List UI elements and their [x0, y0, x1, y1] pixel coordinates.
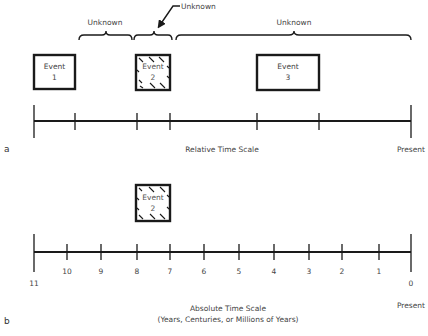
event-1-number: 1: [52, 73, 57, 82]
event-3-box: Event 3: [257, 55, 319, 90]
axis-tick-label: 11: [29, 279, 39, 288]
axis-tick-label: 6: [202, 267, 207, 276]
panel-a-label: a: [4, 144, 10, 154]
brace-label-unknown-3: Unknown: [277, 18, 312, 27]
axis-tick-label: 5: [237, 267, 242, 276]
arrow-unknown-2: [160, 6, 180, 25]
axis-tick-label: 8: [135, 267, 140, 276]
event-2-label-absolute: Event: [142, 193, 164, 202]
panel-a: Unknown Unknown Unknown Event 1: [4, 2, 425, 154]
absolute-scale-label: Absolute Time Scale: [190, 304, 266, 313]
axis-tick-label: 7: [168, 267, 173, 276]
absolute-scale-sublabel: (Years, Centuries, or Millions of Years): [157, 315, 298, 324]
event-2-box-absolute: Event 2: [136, 185, 170, 221]
relative-scale-label: Relative Time Scale: [185, 145, 259, 154]
event-2-box: Event 2: [136, 55, 170, 90]
axis-tick-label: 3: [307, 267, 312, 276]
event-2-number: 2: [151, 73, 156, 82]
absolute-axis-ticks: 11109876543210: [29, 234, 413, 288]
brace-label-unknown-1: Unknown: [88, 18, 123, 27]
event-2-number-absolute: 2: [151, 204, 156, 213]
brace-unknown-2: [134, 31, 172, 40]
axis-tick-label: 9: [99, 267, 104, 276]
event-1-label: Event: [44, 62, 66, 71]
axis-tick-label: 10: [62, 267, 72, 276]
event-3-label: Event: [277, 62, 299, 71]
time-scale-diagram: Unknown Unknown Unknown Event 1: [0, 0, 428, 336]
axis-tick-label: 1: [377, 267, 382, 276]
brace-unknown-1: [79, 31, 132, 40]
event-2-label: Event: [142, 62, 164, 71]
brace-unknown-3: [176, 31, 411, 40]
event-3-number: 3: [286, 73, 291, 82]
panel-b: Event 2 11109876543210 Present b Absolut…: [4, 185, 425, 326]
event-1-box: Event 1: [34, 55, 75, 89]
present-label-b: Present: [397, 301, 425, 310]
axis-tick-label: 2: [340, 267, 345, 276]
present-label-a: Present: [397, 145, 425, 154]
axis-tick-label: 0: [409, 279, 414, 288]
panel-b-label: b: [4, 316, 10, 326]
brace-label-unknown-2: Unknown: [181, 2, 216, 11]
axis-tick-label: 4: [272, 267, 277, 276]
